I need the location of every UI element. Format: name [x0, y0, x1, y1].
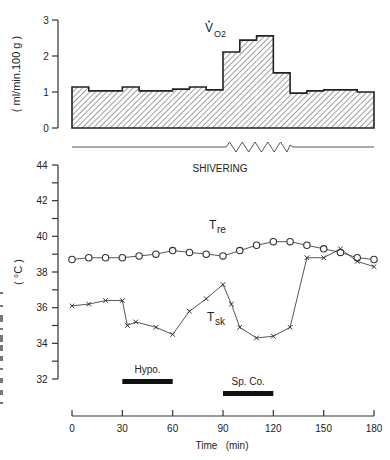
- shivering-panel: SHIVERING: [72, 142, 374, 174]
- vo2-bar: [307, 91, 324, 128]
- legend-tre-sub: re: [217, 224, 226, 235]
- time-x-tick-label: 30: [117, 423, 129, 434]
- time-x-tick-label: 150: [315, 423, 332, 434]
- legend-tsk-main: T: [207, 310, 215, 324]
- treatment-annotations: Hypo. Sp. Co.: [122, 364, 273, 396]
- shivering-label: SHIVERING: [192, 163, 247, 174]
- tre-point: [153, 251, 159, 257]
- tre-point: [169, 247, 175, 253]
- hypo-bar: [122, 379, 172, 384]
- time-x-ticks: 0306090120150180: [69, 410, 383, 434]
- tsk-point: [204, 296, 209, 301]
- time-x-tick-label: 60: [167, 423, 179, 434]
- series-tre: [69, 238, 377, 262]
- cropped-text-fragment: [0, 356, 3, 361]
- temp-y-tick-label: 38: [36, 267, 48, 278]
- cropped-text-fragment: [0, 390, 3, 395]
- legend-tre: T re: [209, 218, 226, 235]
- temp-y-tick-label: 36: [36, 302, 48, 313]
- time-x-tick-label: 0: [69, 423, 75, 434]
- tre-point: [304, 242, 310, 248]
- cropped-text-fragment: [0, 335, 3, 342]
- tre-point: [253, 242, 259, 248]
- vo2-panel: 0123 ( ml/min.100 g ) V O2: [10, 15, 374, 134]
- tsk-point: [221, 282, 226, 287]
- tre-point: [237, 247, 243, 253]
- time-x-tick-label: 180: [366, 423, 383, 434]
- tre-point: [270, 238, 276, 244]
- tsk-point: [229, 302, 234, 307]
- vo2-bar: [139, 91, 173, 128]
- vo2-title-sub: O2: [214, 29, 226, 39]
- tre-point: [287, 238, 293, 244]
- temp-y-tick-label: 34: [36, 338, 48, 349]
- vo2-bar: [257, 36, 274, 128]
- temperature-panel: 32343638404244 ( °C ) T re T sk Hypo. Sp…: [12, 160, 383, 452]
- vo2-bar: [173, 89, 190, 128]
- vo2-bar: [223, 52, 240, 128]
- vo2-dot-icon: [208, 21, 210, 23]
- temp-y-tick-label: 40: [36, 231, 48, 242]
- tre-point: [136, 253, 142, 259]
- temp-y-tick-label: 32: [36, 374, 48, 385]
- vo2-bar: [89, 91, 123, 128]
- cropped-text-fragment: [0, 328, 3, 330]
- legend-tsk: T sk: [207, 310, 226, 327]
- vo2-y-ticks: 0123: [43, 15, 58, 134]
- tre-point: [119, 255, 125, 261]
- figure: 0123 ( ml/min.100 g ) V O2 SHIVERING 323…: [0, 0, 390, 460]
- vo2-bar: [122, 87, 139, 128]
- cropped-text-fragment: [0, 378, 3, 383]
- tre-point: [220, 253, 226, 259]
- vo2-bar: [290, 93, 307, 128]
- vo2-y-axis-label: ( ml/min.100 g ): [10, 36, 22, 112]
- vo2-y-tick-label: 3: [43, 15, 49, 26]
- tre-point: [203, 251, 209, 257]
- tsk-point: [237, 325, 242, 330]
- cropped-text-fragment: [0, 305, 3, 307]
- tsk-point: [187, 309, 192, 314]
- tre-point: [371, 256, 377, 262]
- time-x-tick-label: 90: [217, 423, 229, 434]
- tsk-point: [372, 264, 377, 269]
- vo2-y-tick-label: 0: [43, 123, 49, 134]
- vo2-bar: [273, 73, 290, 128]
- cropped-text-fragment: [0, 292, 3, 294]
- vo2-bar: [72, 87, 89, 128]
- temp-y-axis-label: ( °C ): [12, 259, 24, 285]
- vo2-bar: [240, 40, 257, 128]
- vo2-title: V O2: [205, 21, 226, 39]
- vo2-y-tick-label: 1: [43, 87, 49, 98]
- vo2-title-main: V: [205, 21, 213, 35]
- vo2-bar: [206, 90, 223, 128]
- vo2-bar: [189, 87, 206, 128]
- tre-point: [86, 255, 92, 261]
- spco-label: Sp. Co.: [231, 376, 264, 387]
- vo2-bar: [357, 92, 374, 128]
- cropped-text-fragment: [0, 345, 3, 351]
- tre-point: [102, 255, 108, 261]
- time-x-axis-label: Time (min): [196, 440, 249, 451]
- time-x-tick-label: 120: [265, 423, 282, 434]
- tre-point: [186, 249, 192, 255]
- temp-y-ticks: 32343638404244: [36, 160, 58, 385]
- tsk-point: [170, 332, 175, 337]
- hypo-label: Hypo.: [134, 364, 160, 375]
- tre-point: [320, 246, 326, 252]
- spco-bar: [223, 391, 273, 396]
- cropped-text-fragment: [0, 402, 3, 404]
- vo2-y-tick-label: 2: [43, 51, 49, 62]
- legend-tre-main: T: [209, 218, 217, 232]
- temp-y-tick-label: 44: [36, 160, 48, 171]
- shivering-trace: [72, 142, 374, 152]
- cropped-text-fragment: [0, 368, 3, 370]
- legend-tsk-sub: sk: [215, 316, 226, 327]
- cropped-text-fragment: [0, 315, 3, 322]
- vo2-bar: [324, 90, 358, 128]
- vo2-bars: [72, 36, 374, 128]
- tre-point: [69, 256, 75, 262]
- temp-y-tick-label: 42: [36, 195, 48, 206]
